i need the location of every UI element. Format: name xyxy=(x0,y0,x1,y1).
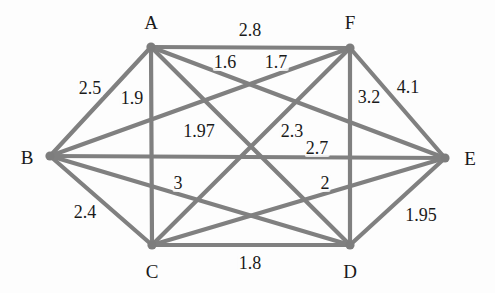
edge-weight-label: 2 xyxy=(320,174,331,192)
edge-weight-label: 1.9 xyxy=(120,89,145,107)
node-label-a: A xyxy=(144,13,158,32)
node-label-f: F xyxy=(345,13,356,32)
labels-layer: 2.82.51.91.61.73.24.11.972.32.7322.41.81… xyxy=(0,0,495,293)
edge-weight-label: 1.97 xyxy=(182,122,216,140)
edge-weight-label: 4.1 xyxy=(396,78,421,96)
edge-weight-label: 1.8 xyxy=(238,254,263,272)
node-label-d: D xyxy=(343,262,357,281)
edge-weight-label: 2.7 xyxy=(305,139,330,157)
node-label-b: B xyxy=(21,148,34,167)
graph-figure: 2.82.51.91.61.73.24.11.972.32.7322.41.81… xyxy=(0,0,495,293)
node-label-c: C xyxy=(146,262,159,281)
edge-weight-label: 2.5 xyxy=(78,79,103,97)
edge-weight-label: 2.8 xyxy=(238,21,263,39)
edge-weight-label: 1.7 xyxy=(264,53,289,71)
edge-weight-label: 3 xyxy=(173,174,184,192)
node-label-e: E xyxy=(464,149,476,168)
edge-weight-label: 2.4 xyxy=(73,203,98,221)
edge-weight-label: 1.95 xyxy=(404,206,438,224)
edge-weight-label: 1.6 xyxy=(213,53,238,71)
edge-weight-label: 3.2 xyxy=(357,88,382,106)
edge-weight-label: 2.3 xyxy=(280,122,305,140)
